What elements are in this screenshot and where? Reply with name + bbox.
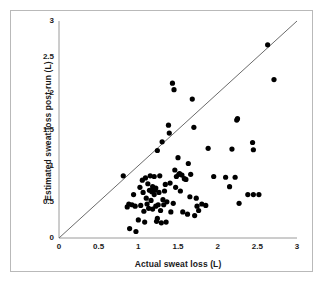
data-point xyxy=(271,77,276,82)
data-point xyxy=(155,148,160,153)
data-point xyxy=(173,185,178,190)
data-point xyxy=(167,131,172,136)
data-point xyxy=(190,97,195,102)
x-tick-label: 0.5 xyxy=(87,242,111,251)
data-point xyxy=(223,175,228,180)
data-point xyxy=(131,192,136,197)
y-tick-label: 3 xyxy=(30,16,54,25)
data-point xyxy=(191,125,196,130)
data-point xyxy=(163,182,168,187)
y-tick-label: 1 xyxy=(30,161,54,170)
scatter-chart: Actual sweat loss (L) Estimated sweat lo… xyxy=(0,0,325,289)
x-tick-label: 2 xyxy=(206,242,230,251)
data-point xyxy=(188,172,193,177)
y-tick-label: 1.5 xyxy=(30,125,54,134)
x-tick-label: 0 xyxy=(47,242,71,251)
data-point xyxy=(171,201,176,206)
data-point xyxy=(265,42,270,47)
data-point xyxy=(171,87,176,92)
data-point xyxy=(152,174,157,179)
data-point xyxy=(203,203,208,208)
data-point xyxy=(245,192,250,197)
x-axis-title: Actual sweat loss (L) xyxy=(59,259,297,269)
x-tick-label: 1.5 xyxy=(166,242,190,251)
data-point xyxy=(133,229,138,234)
data-point xyxy=(121,173,126,178)
data-point xyxy=(196,208,201,213)
data-point xyxy=(251,147,256,152)
data-point xyxy=(180,209,185,214)
data-point xyxy=(164,199,169,204)
data-point xyxy=(143,175,148,180)
data-point xyxy=(137,185,142,190)
data-point xyxy=(229,146,234,151)
data-point xyxy=(233,175,238,180)
data-point xyxy=(235,116,240,121)
x-tick-label: 1 xyxy=(126,242,150,251)
data-point xyxy=(166,123,171,128)
data-point xyxy=(211,174,216,179)
data-point xyxy=(155,216,160,221)
data-point xyxy=(185,212,190,217)
y-tick-label: 0 xyxy=(30,233,54,242)
data-point xyxy=(194,196,199,201)
data-point xyxy=(158,208,163,213)
data-point xyxy=(162,188,167,193)
data-point xyxy=(186,161,191,166)
x-tick-label: 3 xyxy=(285,242,309,251)
data-point xyxy=(156,202,161,207)
data-point xyxy=(187,194,192,199)
data-point xyxy=(172,167,177,172)
data-point xyxy=(251,192,256,197)
y-tick-label: 2 xyxy=(30,88,54,97)
data-point xyxy=(133,204,138,209)
data-point xyxy=(141,209,146,214)
x-tick-label: 2.5 xyxy=(245,242,269,251)
data-point xyxy=(138,203,143,208)
data-point xyxy=(152,192,157,197)
data-point xyxy=(167,180,172,185)
y-tick-label: 0.5 xyxy=(30,197,54,206)
data-point xyxy=(178,188,183,193)
data-point xyxy=(256,192,261,197)
data-point xyxy=(159,220,164,225)
data-point xyxy=(168,209,173,214)
data-point xyxy=(145,181,150,186)
data-point xyxy=(157,173,162,178)
data-point xyxy=(136,217,141,222)
data-point xyxy=(250,140,255,145)
data-point xyxy=(164,219,169,224)
y-tick-label: 2.5 xyxy=(30,52,54,61)
data-point xyxy=(206,146,211,151)
data-point xyxy=(160,139,165,144)
data-point xyxy=(175,155,180,160)
data-point xyxy=(156,190,161,195)
data-point xyxy=(127,226,132,231)
data-point xyxy=(227,184,232,189)
data-point xyxy=(140,190,145,195)
data-points-group xyxy=(121,42,277,234)
data-point xyxy=(142,219,147,224)
data-point xyxy=(192,213,197,218)
data-point xyxy=(148,198,153,203)
data-point xyxy=(236,201,241,206)
data-point xyxy=(170,81,175,86)
line-of-identity xyxy=(59,21,297,238)
data-point xyxy=(153,185,158,190)
data-point xyxy=(183,177,188,182)
data-point xyxy=(144,196,149,201)
